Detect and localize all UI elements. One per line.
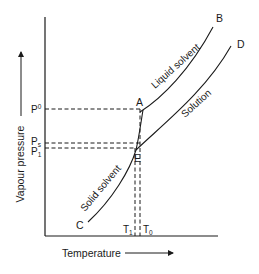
point-c-label: C: [76, 219, 84, 231]
solution-label: Solution: [179, 87, 213, 119]
x-axis-label: Temperature: [62, 247, 121, 259]
t1-label: T1: [123, 224, 133, 236]
p0-label: P0: [31, 103, 42, 115]
point-d-label: D: [237, 38, 245, 50]
point-a-label: A: [136, 96, 143, 108]
liquid-solvent-label: Liquid solvent: [149, 41, 202, 90]
vapour-pressure-diagram: Vapour pressure Temperature P0 Ps P1 T1 …: [0, 0, 259, 274]
point-e-label: E: [134, 152, 141, 164]
y-axis-label: Vapour pressure: [14, 125, 26, 202]
t0-label: T0: [143, 224, 153, 236]
point-b-label: B: [216, 12, 223, 24]
